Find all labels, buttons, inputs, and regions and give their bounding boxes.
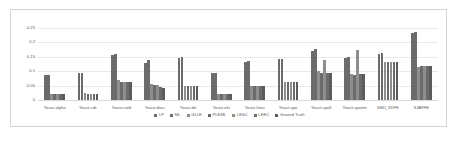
bar-group (205, 22, 238, 100)
bar-group (305, 22, 338, 100)
bar-group (71, 22, 104, 100)
x-axis-label: Yeast-alpha (38, 103, 71, 112)
bar (296, 82, 299, 100)
y-axis-tick-label: 0 (33, 98, 35, 102)
x-axis-labels: Yeast-alphaYeast-cdcYeast-coldYeast-diau… (38, 103, 438, 112)
legend-label: GLLE (191, 113, 202, 117)
gridline (38, 100, 438, 101)
x-axis-label: Yeast-diau (138, 103, 171, 112)
legend-swatch-icon (170, 114, 173, 117)
x-axis-label: SJAFFE (405, 103, 438, 112)
legend-item[interactable]: ML (170, 113, 180, 117)
legend-item[interactable]: PLEML (208, 113, 226, 117)
x-axis-label: Yeast-heat (238, 103, 271, 112)
bar (396, 62, 399, 100)
x-axis-label: Yeast-spoem (338, 103, 371, 112)
bar-group (171, 22, 204, 100)
bar (329, 73, 332, 100)
legend-swatch-icon (254, 114, 257, 117)
x-axis-label: Yeast-cdc (71, 103, 104, 112)
legend-item[interactable]: LEEC (254, 113, 270, 117)
bar (362, 74, 365, 100)
bar (162, 88, 165, 100)
bar-group (105, 22, 138, 100)
legend-item[interactable]: GLLE (187, 113, 202, 117)
bar (196, 86, 199, 100)
y-axis-tick-label: 0.15 (27, 55, 35, 59)
x-axis-label: SBU_3DFE (371, 103, 404, 112)
legend-swatch-icon (154, 114, 157, 117)
plot-wrapper: 0.250.20.150.10.050 (38, 22, 438, 100)
x-axis-label: Yeast-elu (205, 103, 238, 112)
bar-group (405, 22, 438, 100)
y-axis-tick-label: 0.1 (29, 69, 35, 73)
x-axis-label: Yeast-spo (271, 103, 304, 112)
bar (229, 94, 232, 100)
x-axis-label: Yeast-cold (105, 103, 138, 112)
bar (62, 94, 65, 100)
y-axis-tick-label: 0.2 (29, 40, 35, 44)
bar (96, 94, 99, 100)
bar-group (38, 22, 71, 100)
bar-group (338, 22, 371, 100)
bar-group (238, 22, 271, 100)
bar-group (138, 22, 171, 100)
bar-groups (38, 22, 438, 100)
chart-legend: LPMLGLLEPLEMLLESCLEECGround Truth (11, 113, 448, 117)
bar (429, 66, 432, 100)
bar-group (271, 22, 304, 100)
x-axis-label: Yeast-dtt (171, 103, 204, 112)
legend-label: PLEML (212, 113, 226, 117)
legend-label: LESC (237, 113, 248, 117)
legend-label: LP (159, 113, 164, 117)
chart-container: 0.250.20.150.10.050 Yeast-alphaYeast-cdc… (10, 9, 447, 127)
bar (129, 82, 132, 100)
bar-group (371, 22, 404, 100)
legend-label: LEEC (258, 113, 269, 117)
legend-swatch-icon (232, 114, 235, 117)
x-axis-label: Yeast-spo5 (305, 103, 338, 112)
legend-swatch-icon (208, 114, 211, 117)
legend-label: Ground Truth (280, 113, 305, 117)
y-axis-tick-label: 0.25 (27, 26, 35, 30)
legend-item[interactable]: LESC (232, 113, 248, 117)
plot-area: 0.250.20.150.10.050 (38, 22, 438, 100)
legend-swatch-icon (187, 114, 190, 117)
legend-label: ML (175, 113, 181, 117)
bar (262, 86, 265, 100)
legend-item[interactable]: Ground Truth (275, 113, 304, 117)
y-axis-tick-label: 0.05 (27, 83, 35, 87)
legend-item[interactable]: LP (154, 113, 164, 117)
legend-swatch-icon (275, 114, 278, 117)
